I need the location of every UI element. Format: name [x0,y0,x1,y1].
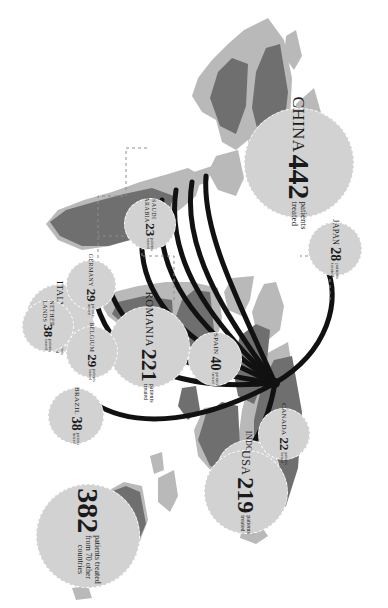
bubble-spain-label2: treated [211,373,215,385]
bubble-china[interactable]: CHINA 442 patients treated [244,108,354,218]
bubble-usa-value: 219 [235,477,258,513]
bubble-japan-country: JAPAN [331,219,339,245]
bubble-belgium[interactable]: BELGIUM 29 patients treated [66,326,118,378]
bubble-china-value: 442 [285,154,314,199]
bubble-spain-value: 40 [208,357,221,371]
bubble-belgium-value: 29 [86,354,98,367]
bubble-brazil-country: BRAZIL [73,387,80,415]
summary-value: 382 [74,488,103,533]
bubble-romania-country: ROMANIA [144,291,155,346]
leader-saudi [126,148,148,196]
bubble-canada-value: 22 [278,437,290,450]
bubble-usa-country: USA [240,450,252,475]
bubble-brazil-value: 38 [69,417,82,431]
bubble-canada-label2: treated [280,452,284,464]
bubble-romania-label2: treated [143,384,149,403]
bubble-china-label2: treated [290,201,299,229]
bubble-netherlands-label2: treated [44,339,48,351]
bubble-canada[interactable]: CANADA 22 patients treated [258,408,310,460]
bubble-belgium-country: BELGIUM [89,322,95,352]
bubble-canada-country: CANADA [281,403,288,435]
bubble-usa[interactable]: USA 219 patients treated [204,450,288,534]
bubble-other-countries[interactable]: 382 patients treated from 70 other count… [36,484,140,588]
bubble-china-label1: patients [299,201,308,229]
summary-line1: patients treated [92,535,100,584]
bubble-germany-value: 29 [85,289,97,302]
bubble-saudi-value: 23 [144,223,156,236]
bubble-spain-country: SPAIN [212,333,219,355]
bubble-netherlands-country-l2: LANDS [41,300,48,322]
bubble-germany[interactable]: GERMANY 29 patients treated [66,260,116,310]
bubble-brazil[interactable]: BRAZIL 38 patients treated [48,388,104,444]
world-map-canvas: CHINA 442 patients treated JAPAN 28 pati… [0,0,388,608]
summary-line3: countries [75,535,83,584]
bubble-saudi-label2: treated [146,238,150,250]
bubble-japan-label1: patients [335,263,340,279]
bubble-japan[interactable]: JAPAN 28 patients treated [308,222,362,276]
bubble-netherlands-value: 38 [42,324,54,337]
bubble-usa-label1: patients [246,515,252,534]
summary-line2: from 70 other [84,535,92,584]
bubble-romania-value: 221 [139,349,160,382]
bubble-spain[interactable]: SPAIN 40 patients treated [188,332,242,386]
bubble-saudi-country: SAUDI ARABIA [143,197,156,221]
bubble-saudi-arabia[interactable]: SAUDI ARABIA 23 patients treated [124,198,176,250]
bubble-brazil-label2: treated [72,433,76,445]
bubble-belgium-label2: treated [88,369,92,381]
bubble-germany-label2: treated [87,304,91,316]
bubble-japan-value: 28 [328,247,341,261]
bubble-romania[interactable]: ROMANIA 221 patients treated [108,306,190,388]
bubble-japan-label2: treated [330,263,335,279]
bubble-netherlands-country-l1: NETHER- [48,300,55,322]
bubble-germany-country: GERMANY [88,254,94,287]
bubble-usa-label2: treated [240,515,246,534]
bubble-china-country: CHINA [291,97,308,153]
bubble-romania-label1: patients [149,384,155,403]
infographic-root: CHINA 442 patients treated JAPAN 28 pati… [0,0,388,608]
